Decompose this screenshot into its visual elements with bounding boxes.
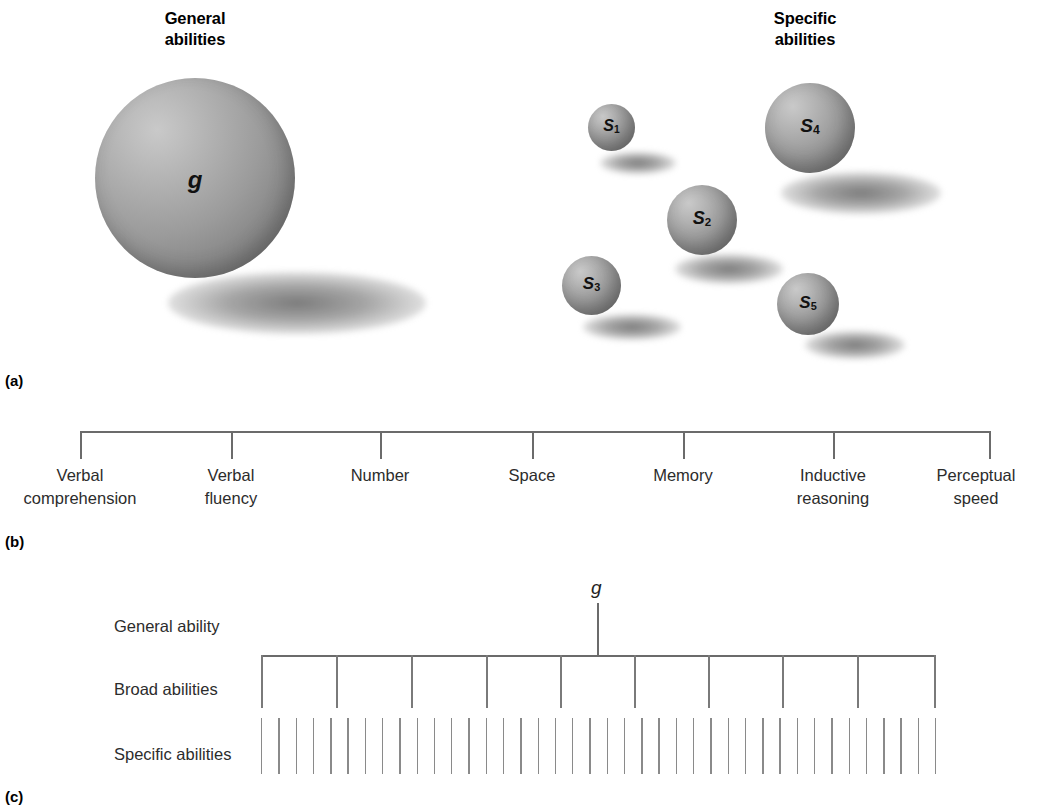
- factor-tick-5: [833, 431, 835, 459]
- specific-ability-tick: [676, 718, 677, 774]
- broad-ability-tick: [934, 655, 936, 708]
- s3-sphere-shadow: [583, 314, 681, 340]
- s2-sphere-label: S2: [667, 208, 737, 229]
- specific-ability-tick: [728, 718, 729, 774]
- specific-ability-tick: [451, 718, 452, 774]
- row-label-general-ability: General ability: [114, 617, 219, 636]
- s5-sphere-label: S5: [777, 293, 839, 313]
- specific-ability-tick: [624, 718, 625, 774]
- specific-ability-tick: [278, 718, 279, 774]
- specific-ability-tick: [555, 718, 556, 774]
- broad-ability-tick: [336, 655, 338, 708]
- s2-sphere-shadow: [675, 254, 783, 284]
- broad-ability-tick: [634, 655, 636, 708]
- specific-ability-tick: [468, 718, 469, 774]
- broad-ability-tick: [560, 655, 562, 708]
- row-label-specific-abilities: Specific abilities: [114, 745, 231, 764]
- factor-tick-4: [683, 431, 685, 459]
- general-abilities-heading: General abilities: [100, 8, 290, 50]
- factor-label-space: Space: [467, 464, 597, 487]
- specific-ability-tick: [503, 718, 504, 774]
- s1-sphere: S1: [588, 104, 635, 151]
- broad-ability-tick: [782, 655, 784, 708]
- specific-ability-tick: [313, 718, 314, 774]
- factor-label-number: Number: [310, 464, 450, 487]
- specific-ability-tick: [520, 718, 521, 774]
- specific-ability-tick: [797, 718, 798, 774]
- specific-ability-tick: [658, 718, 659, 774]
- g-sphere-label: g: [95, 166, 295, 194]
- s1-sphere-label: S1: [588, 117, 635, 135]
- s5-sphere: S5: [777, 273, 839, 335]
- specific-ability-tick: [693, 718, 694, 774]
- specific-ability-tick: [849, 718, 850, 774]
- specific-ability-tick: [918, 718, 919, 774]
- factor-tick-1: [231, 431, 233, 459]
- s2-sphere: S2: [667, 185, 737, 255]
- specific-ability-tick: [900, 718, 901, 774]
- specific-ability-tick: [486, 718, 487, 774]
- s4-sphere: S4: [765, 83, 855, 173]
- g-sphere: g: [95, 78, 295, 278]
- s4-sphere-shadow: [781, 172, 941, 214]
- factor-label-memory: Memory: [613, 464, 753, 487]
- specific-ability-tick: [347, 718, 348, 774]
- specific-ability-tick: [641, 718, 642, 774]
- specific-ability-tick: [883, 718, 884, 774]
- panel-c-carroll-hierarchical-model: g General ability Broad abilities Specif…: [0, 560, 1037, 806]
- specific-ability-tick: [745, 718, 746, 774]
- specific-ability-tick: [831, 718, 832, 774]
- specific-ability-tick: [572, 718, 573, 774]
- row-label-broad-abilities: Broad abilities: [114, 680, 218, 699]
- factor-label-inductive-reasoning: Inductive reasoning: [763, 464, 903, 510]
- specific-ability-tick: [710, 718, 711, 774]
- g-node-label: g: [591, 577, 602, 599]
- specific-ability-tick: [330, 718, 331, 774]
- specific-ability-tick: [296, 718, 297, 774]
- panel-b-thurstone-model: Verbal comprehension Verbal fluency Numb…: [0, 400, 1037, 560]
- s4-sphere-label: S4: [765, 115, 855, 137]
- specific-ability-tick: [866, 718, 867, 774]
- s1-sphere-shadow: [600, 152, 676, 174]
- factor-tick-2: [380, 431, 382, 459]
- specific-ability-tick: [935, 718, 936, 774]
- broad-ability-tick: [708, 655, 710, 708]
- g-sphere-shadow: [168, 272, 426, 334]
- specific-ability-tick: [762, 718, 763, 774]
- g-node-stem: [597, 603, 599, 656]
- specific-ability-tick: [434, 718, 435, 774]
- factor-tick-6: [989, 431, 991, 459]
- specific-ability-tick: [607, 718, 608, 774]
- specific-ability-tick: [779, 718, 780, 774]
- specific-ability-tick: [589, 718, 590, 774]
- specific-abilities-heading: Specific abilities: [705, 8, 905, 50]
- panel-a-letter: (a): [5, 372, 23, 389]
- panel-a-spearman-model: General abilities Specific abilities g S…: [0, 0, 1037, 400]
- factor-label-verbal-fluency: Verbal fluency: [161, 464, 301, 510]
- panel-b-letter: (b): [5, 533, 24, 550]
- broad-ability-tick: [486, 655, 488, 708]
- broad-abilities-bar: [261, 655, 935, 657]
- broad-ability-tick: [857, 655, 859, 708]
- specific-ability-tick: [382, 718, 383, 774]
- s3-sphere-label: S3: [562, 274, 621, 294]
- factor-tick-3: [532, 431, 534, 459]
- s5-sphere-shadow: [805, 331, 905, 359]
- s3-sphere: S3: [562, 256, 621, 315]
- factor-tick-0: [80, 431, 82, 459]
- panel-c-letter: (c): [5, 788, 23, 805]
- specific-ability-tick: [399, 718, 400, 774]
- factor-label-perceptual-speed: Perceptual speed: [916, 464, 1036, 510]
- broad-ability-tick: [411, 655, 413, 708]
- specific-ability-tick: [365, 718, 366, 774]
- specific-ability-tick: [261, 718, 262, 774]
- specific-ability-tick: [814, 718, 815, 774]
- specific-ability-tick: [417, 718, 418, 774]
- broad-ability-tick: [261, 655, 263, 708]
- factor-label-verbal-comprehension: Verbal comprehension: [0, 464, 165, 510]
- specific-ability-tick: [538, 718, 539, 774]
- factor-brace-horizontal: [80, 431, 991, 433]
